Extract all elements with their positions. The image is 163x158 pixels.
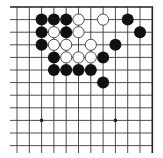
black-stone[interactable] bbox=[97, 77, 109, 89]
black-stone[interactable] bbox=[122, 14, 134, 26]
black-stone[interactable] bbox=[134, 26, 146, 38]
white-stone[interactable] bbox=[98, 14, 109, 25]
white-stone[interactable] bbox=[48, 39, 59, 50]
black-stone[interactable] bbox=[85, 64, 97, 76]
black-stone[interactable] bbox=[36, 26, 48, 38]
black-stone[interactable] bbox=[109, 39, 121, 51]
white-stone[interactable] bbox=[61, 52, 72, 63]
white-stone[interactable] bbox=[73, 52, 84, 63]
black-stone[interactable] bbox=[48, 14, 60, 26]
white-stone[interactable] bbox=[85, 52, 96, 63]
black-stone[interactable] bbox=[48, 51, 60, 63]
black-stone[interactable] bbox=[36, 14, 48, 26]
white-stone[interactable] bbox=[48, 27, 59, 38]
white-stone[interactable] bbox=[61, 39, 72, 50]
white-stone[interactable] bbox=[85, 39, 96, 50]
black-stone[interactable] bbox=[60, 26, 72, 38]
black-stone[interactable] bbox=[36, 39, 48, 51]
black-stone[interactable] bbox=[60, 14, 72, 26]
star-point bbox=[40, 119, 44, 123]
black-stone[interactable] bbox=[97, 51, 109, 63]
black-stone[interactable] bbox=[60, 64, 72, 76]
star-point bbox=[114, 119, 118, 123]
white-stone[interactable] bbox=[73, 14, 84, 25]
white-stone[interactable] bbox=[73, 27, 84, 38]
black-stone[interactable] bbox=[73, 64, 85, 76]
go-board[interactable] bbox=[0, 0, 163, 158]
black-stone[interactable] bbox=[48, 64, 60, 76]
